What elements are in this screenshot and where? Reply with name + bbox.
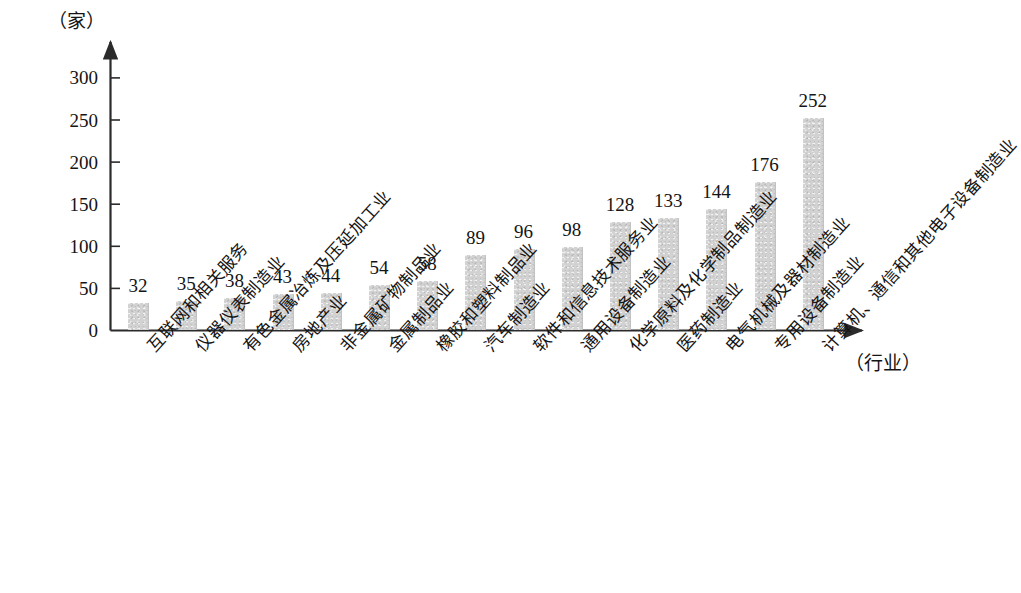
bar-value-label: 54 bbox=[354, 258, 404, 277]
bar-value-label: 89 bbox=[450, 228, 500, 247]
bar-value-label: 176 bbox=[740, 155, 790, 174]
bar bbox=[128, 303, 149, 330]
bar-value-label: 252 bbox=[788, 91, 838, 110]
bar-value-label: 128 bbox=[595, 195, 645, 214]
bar-value-label: 98 bbox=[547, 220, 597, 239]
bar-value-label: 32 bbox=[113, 276, 163, 295]
bar-value-label: 133 bbox=[643, 191, 693, 210]
bar-value-label: 144 bbox=[691, 182, 741, 201]
bar-value-label: 96 bbox=[499, 222, 549, 241]
